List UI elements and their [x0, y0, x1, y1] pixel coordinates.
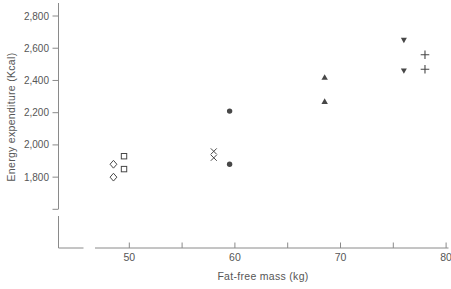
marker-filled-triangle-down	[401, 38, 407, 43]
marker-filled-triangle-up	[321, 98, 327, 104]
scatter-plot-canvas: 2,8002,6002,4002,2002,0001,80050607080	[0, 0, 451, 289]
marker-open-square	[121, 154, 126, 159]
marker-open-square	[121, 166, 126, 171]
marker-filled-triangle-down	[401, 68, 407, 73]
x-tick-label: 60	[229, 251, 241, 263]
y-tick-label: 2,600	[24, 43, 49, 54]
x-tick-label: 50	[123, 251, 135, 263]
x-tick-label: 80	[440, 251, 451, 263]
x-tick-label: 70	[335, 251, 347, 263]
scatter-figure: 2,8002,6002,4002,2002,0001,80050607080 E…	[0, 0, 451, 289]
marker-filled-circle	[227, 162, 232, 167]
marker-plus	[421, 50, 430, 59]
marker-filled-circle	[227, 108, 232, 113]
y-tick-label: 2,400	[24, 75, 49, 86]
y-tick-label: 2,200	[24, 107, 49, 118]
y-tick-label: 1,800	[24, 172, 49, 183]
marker-x	[211, 148, 217, 154]
x-axis-title: Fat-free mass (kg)	[113, 270, 413, 282]
marker-plus	[421, 65, 430, 74]
marker-x	[211, 155, 217, 161]
marker-open-diamond	[110, 173, 117, 181]
marker-filled-triangle-up	[321, 74, 327, 80]
y-axis-title: Energy expenditure (Kcal)	[5, 53, 17, 182]
marker-open-diamond	[110, 160, 117, 168]
y-tick-label: 2,000	[24, 139, 49, 150]
y-tick-label: 2,800	[24, 11, 49, 22]
